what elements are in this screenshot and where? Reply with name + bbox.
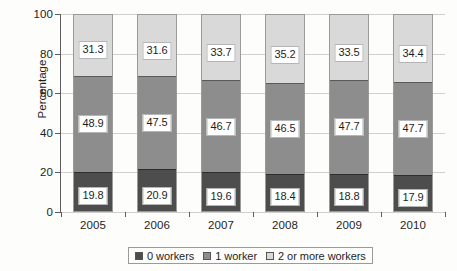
bar-segment[interactable]: 18.8 (330, 174, 368, 211)
bar-segment[interactable]: 19.6 (202, 172, 240, 211)
bar-segment[interactable]: 33.5 (330, 15, 368, 80)
stacked-bar[interactable]: 34.447.717.9 (393, 14, 433, 212)
legend-label: 2 or more workers (278, 250, 366, 262)
plot-area: 31.348.919.831.647.520.933.746.719.635.2… (61, 14, 445, 212)
x-tick-label: 2005 (61, 219, 125, 231)
bar-value-label: 46.7 (206, 118, 235, 136)
x-tick-label: 2009 (317, 219, 381, 231)
x-tick-label: 2006 (125, 219, 189, 231)
chart-figure: Percentage 020406080100 31.348.919.831.6… (0, 0, 457, 271)
x-tick-label: 2007 (189, 219, 253, 231)
x-tick-mark (445, 212, 446, 217)
x-tick-label: 2008 (253, 219, 317, 231)
y-tick-label: 100 (23, 8, 53, 20)
stacked-bar[interactable]: 33.746.719.6 (201, 14, 241, 212)
bar-value-label: 20.9 (142, 187, 171, 205)
bar-slot: 33.547.718.8 (317, 14, 381, 212)
stacked-bar[interactable]: 31.348.919.8 (73, 14, 113, 212)
x-tick-mark (317, 212, 318, 217)
bar-segment[interactable]: 33.7 (202, 15, 240, 80)
legend-swatch-icon (266, 252, 274, 260)
bar-value-label: 47.7 (334, 118, 363, 136)
x-tick-mark (253, 212, 254, 217)
bar-value-label: 19.6 (206, 188, 235, 206)
bar-segment[interactable]: 46.7 (202, 80, 240, 172)
bar-segment[interactable]: 19.8 (74, 172, 112, 211)
x-tick-mark (125, 212, 126, 217)
x-tick-mark (189, 212, 190, 217)
bar-segment[interactable]: 35.2 (266, 15, 304, 83)
x-tick-mark (61, 212, 62, 217)
bar-value-label: 31.6 (142, 42, 171, 60)
stacked-bar[interactable]: 35.246.518.4 (265, 14, 305, 212)
legend-item[interactable]: 0 workers (135, 250, 194, 262)
bar-value-label: 47.5 (142, 114, 171, 132)
bar-value-label: 18.8 (334, 188, 363, 206)
bar-value-label: 35.2 (270, 46, 299, 64)
bar-segment[interactable]: 46.5 (266, 83, 304, 174)
stacked-bar[interactable]: 33.547.718.8 (329, 14, 369, 212)
bar-segment[interactable]: 47.5 (138, 76, 176, 169)
bar-value-label: 33.5 (334, 44, 363, 62)
legend-swatch-icon (203, 252, 211, 260)
legend-label: 1 worker (215, 250, 257, 262)
y-tick-label: 20 (23, 166, 53, 178)
bar-segment[interactable]: 48.9 (74, 76, 112, 172)
bar-value-label: 46.5 (270, 120, 299, 138)
bar-value-label: 33.7 (206, 44, 235, 62)
bar-slot: 31.647.520.9 (125, 14, 189, 212)
bar-segment[interactable]: 17.9 (394, 175, 432, 211)
bar-slot: 33.746.719.6 (189, 14, 253, 212)
bar-segment[interactable]: 18.4 (266, 174, 304, 211)
bar-segment[interactable]: 47.7 (330, 80, 368, 174)
y-tick-label: 0 (23, 206, 53, 218)
bar-slot: 35.246.518.4 (253, 14, 317, 212)
bar-value-label: 19.8 (78, 187, 107, 205)
x-tick-label: 2010 (381, 219, 445, 231)
bar-value-label: 17.9 (398, 189, 427, 207)
bar-segment[interactable]: 34.4 (394, 15, 432, 82)
bar-value-label: 31.3 (78, 41, 107, 59)
bar-value-label: 34.4 (398, 45, 427, 63)
bar-segment[interactable]: 47.7 (394, 82, 432, 176)
bar-value-label: 47.7 (398, 120, 427, 138)
bar-segment[interactable]: 31.3 (74, 15, 112, 76)
y-tick-label: 80 (23, 48, 53, 60)
x-tick-mark (381, 212, 382, 217)
bar-segment[interactable]: 31.6 (138, 15, 176, 76)
legend-swatch-icon (135, 252, 143, 260)
y-tick-label: 60 (23, 87, 53, 99)
chart-legend: 0 workers1 worker2 or more workers (128, 247, 373, 264)
legend-label: 0 workers (147, 250, 194, 262)
bar-slot: 34.447.717.9 (381, 14, 445, 212)
bar-value-label: 48.9 (78, 115, 107, 133)
legend-item[interactable]: 2 or more workers (266, 250, 366, 262)
y-tick-label: 40 (23, 127, 53, 139)
stacked-bar[interactable]: 31.647.520.9 (137, 14, 177, 212)
legend-item[interactable]: 1 worker (203, 250, 257, 262)
bar-segment[interactable]: 20.9 (138, 169, 176, 211)
bar-slot: 31.348.919.8 (61, 14, 125, 212)
bar-value-label: 18.4 (270, 188, 299, 206)
